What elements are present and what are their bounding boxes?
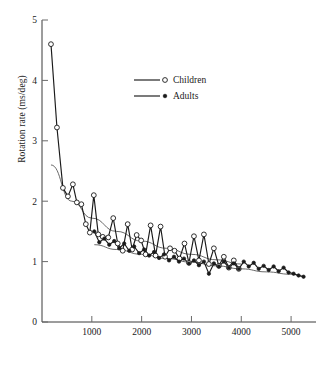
y-tick-label: 0	[32, 317, 37, 327]
data-point-adults	[147, 254, 150, 257]
figure-container: Rotation rate (ms/deg) 012345 1000200030…	[0, 0, 326, 370]
data-point-children	[168, 246, 173, 251]
data-point-adults	[257, 267, 260, 270]
data-point-adults	[187, 262, 190, 265]
x-tick-label: 1000	[82, 327, 101, 337]
data-point-adults	[292, 272, 295, 275]
data-point-adults	[222, 260, 225, 263]
data-point-adults	[202, 260, 205, 263]
series-line-children	[51, 44, 239, 269]
data-point-children	[111, 216, 116, 221]
data-point-children	[70, 182, 75, 187]
data-point-adults	[137, 251, 140, 254]
data-point-adults	[297, 274, 300, 277]
data-point-children	[206, 262, 211, 267]
x-tick-label: 4000	[232, 327, 251, 337]
data-point-children	[182, 241, 187, 246]
data-point-children	[172, 248, 177, 253]
data-point-children	[211, 246, 216, 251]
data-point-adults	[93, 230, 96, 233]
x-tick-label: 2000	[132, 327, 151, 337]
data-point-children	[221, 254, 226, 259]
data-point-children	[55, 125, 60, 130]
x-tick-group: 10002000300040005000	[82, 316, 301, 337]
data-point-adults	[182, 257, 185, 260]
data-point-children	[158, 224, 163, 229]
data-point-children	[125, 222, 130, 227]
y-tick-label: 4	[32, 76, 37, 86]
data-point-adults	[162, 253, 165, 256]
data-point-adults	[103, 237, 106, 240]
x-tick-label: 5000	[282, 327, 301, 337]
x-tick-label: 3000	[182, 327, 201, 337]
data-point-adults	[197, 264, 200, 267]
data-point-adults	[207, 272, 210, 275]
data-point-adults	[237, 267, 240, 270]
axis-group	[42, 20, 316, 322]
data-point-adults	[287, 271, 290, 274]
data-point-adults	[232, 262, 235, 265]
data-point-adults	[118, 247, 121, 250]
legend-group: ChildrenAdults	[134, 75, 206, 101]
y-tick-label: 5	[32, 15, 37, 25]
legend-marker-adults	[163, 94, 167, 98]
data-point-adults	[272, 265, 275, 268]
data-point-children	[192, 234, 197, 239]
data-point-children	[66, 194, 71, 199]
data-point-children	[202, 232, 207, 237]
data-point-adults	[177, 260, 180, 263]
data-point-adults	[192, 259, 195, 262]
y-tick-label: 3	[32, 136, 37, 146]
data-point-adults	[157, 256, 160, 259]
data-point-adults	[98, 241, 101, 244]
data-point-adults	[262, 264, 265, 267]
data-point-adults	[267, 268, 270, 271]
data-point-adults	[252, 261, 255, 264]
data-point-adults	[108, 243, 111, 246]
data-point-adults	[123, 242, 126, 245]
data-point-adults	[277, 270, 280, 273]
data-point-children	[96, 232, 101, 237]
data-point-children	[91, 193, 96, 198]
data-point-adults	[227, 266, 230, 269]
data-point-adults	[113, 239, 116, 242]
data-point-adults	[142, 248, 145, 251]
chart-plot-area: 012345 10002000300040005000 ChildrenAdul…	[0, 0, 326, 370]
series-line-adults	[94, 231, 303, 276]
legend-label-adults: Adults	[173, 91, 199, 101]
data-point-adults	[127, 249, 130, 252]
legend-marker-children	[163, 78, 168, 83]
data-point-adults	[167, 259, 170, 262]
data-point-children	[87, 230, 92, 235]
data-point-adults	[282, 266, 285, 269]
data-point-adults	[217, 265, 220, 268]
data-point-children	[79, 202, 84, 207]
data-point-children	[49, 42, 54, 47]
data-point-adults	[172, 255, 175, 258]
data-point-adults	[242, 260, 245, 263]
data-point-children	[139, 238, 144, 243]
y-tick-label: 1	[32, 257, 37, 267]
data-point-children	[61, 186, 66, 191]
data-point-children	[106, 235, 111, 240]
data-point-adults	[302, 275, 305, 278]
data-point-adults	[247, 265, 250, 268]
y-tick-label: 2	[32, 197, 37, 207]
legend-label-children: Children	[173, 75, 206, 85]
data-point-adults	[132, 245, 135, 248]
data-point-children	[148, 223, 153, 228]
data-point-adults	[212, 262, 215, 265]
data-point-children	[197, 258, 202, 263]
data-point-children	[134, 233, 139, 238]
y-tick-group: 012345	[32, 15, 48, 327]
data-point-adults	[152, 250, 155, 253]
data-point-children	[83, 222, 88, 227]
